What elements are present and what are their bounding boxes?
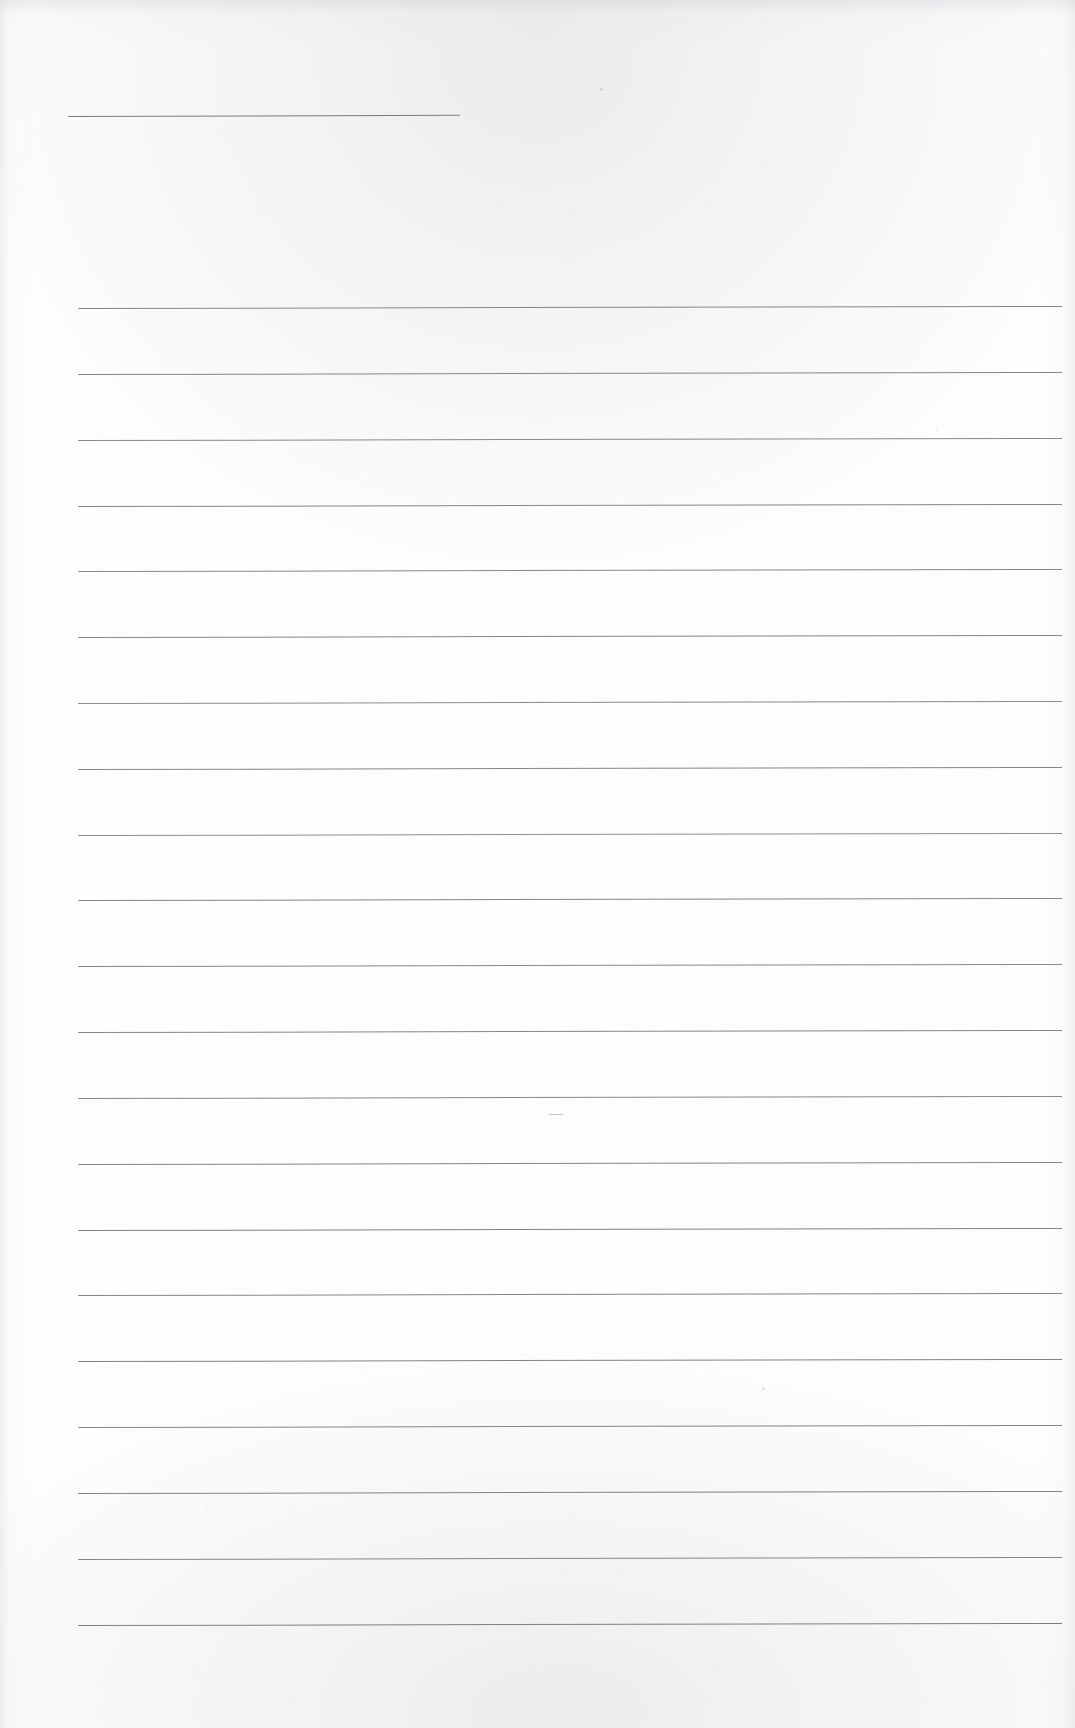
scanned-page — [0, 0, 1075, 1728]
ruled-line — [78, 1359, 1062, 1362]
scan-speck — [762, 1387, 765, 1390]
ruled-line — [78, 898, 1062, 901]
scan-speck — [742, 911, 744, 913]
ruled-line — [78, 372, 1062, 375]
scan-speck — [936, 429, 938, 431]
ruled-line — [78, 1623, 1062, 1626]
paper-surface — [0, 0, 1075, 1728]
scan-speck — [567, 256, 569, 258]
ruled-line — [78, 306, 1062, 309]
ruled-line — [78, 767, 1062, 770]
ruled-line — [78, 701, 1062, 704]
ruled-line — [78, 438, 1062, 441]
ruled-line — [78, 1557, 1062, 1560]
ruled-line — [78, 833, 1062, 836]
ruled-line — [78, 1293, 1062, 1296]
ruled-line — [78, 1491, 1062, 1494]
scan-speck — [347, 231, 349, 233]
ruled-line — [78, 1162, 1062, 1165]
ruled-line — [78, 504, 1062, 507]
header-blank-line — [68, 115, 460, 117]
ruled-line — [78, 1228, 1062, 1231]
ruled-line — [78, 569, 1062, 572]
ruled-line — [78, 964, 1062, 967]
ruled-line — [78, 635, 1062, 638]
ruled-line — [78, 1096, 1062, 1099]
paper-grain-texture — [0, 0, 1075, 1728]
ruled-line — [78, 1425, 1062, 1428]
scan-dash-mark — [549, 1114, 563, 1115]
scan-speck — [600, 88, 603, 91]
ruled-line — [78, 1030, 1062, 1033]
scan-speck — [205, 1509, 207, 1511]
